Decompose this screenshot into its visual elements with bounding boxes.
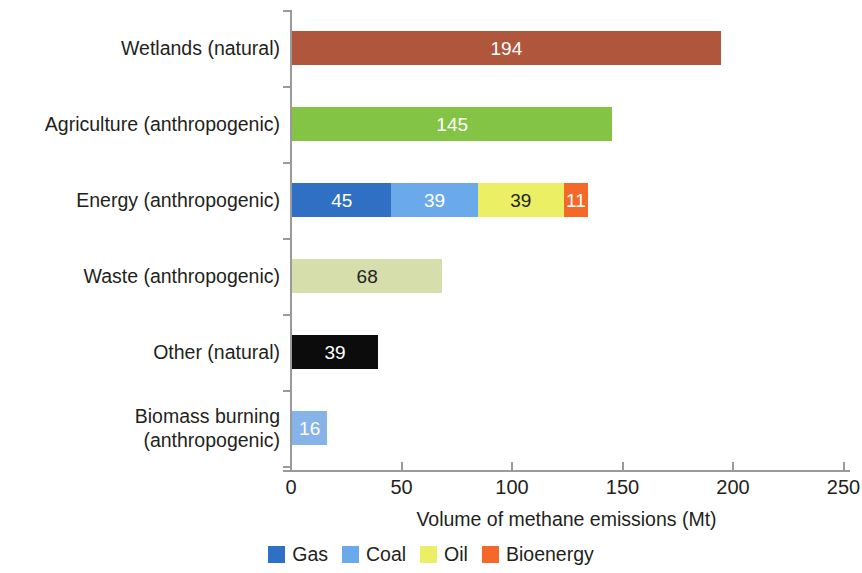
bar[interactable]: 16 [292,411,327,445]
legend-swatch-icon [342,546,359,563]
legend-label: Coal [366,543,406,566]
bar-row: Agriculture (anthropogenic)145 [0,86,862,162]
bar-value-label: 39 [325,343,346,362]
legend-item[interactable]: Bioenergy [482,543,594,566]
x-axis-tick-label: 100 [477,476,547,499]
x-axis-tick-label: 0 [256,476,326,499]
bar-value-label: 45 [331,191,352,210]
legend-item[interactable]: Oil [420,543,468,566]
category-label: Wetlands (natural) [10,36,280,61]
legend-swatch-icon [268,546,285,563]
x-axis-tick-label: 150 [588,476,658,499]
bar-segment[interactable]: 194 [292,31,721,65]
x-axis-line [283,470,850,472]
legend-item[interactable]: Gas [268,543,328,566]
bar-row: Other (natural)39 [0,314,862,390]
bar-segment[interactable]: 45 [292,183,391,217]
x-axis-tick-label: 250 [809,476,862,499]
category-label: Waste (anthropogenic) [10,264,280,289]
bar-segment[interactable]: 68 [292,259,442,293]
bar[interactable]: 39 [292,335,378,369]
bar-segment[interactable]: 11 [564,183,588,217]
x-axis-tick-label: 50 [367,476,437,499]
bar[interactable]: 145 [292,107,612,141]
bar-segment[interactable]: 39 [478,183,564,217]
bar-value-label: 194 [491,39,523,58]
bar[interactable]: 45393911 [292,183,588,217]
bar-segment[interactable]: 145 [292,107,612,141]
bar-value-label: 39 [510,191,531,210]
methane-emissions-bar-chart: Wetlands (natural)194Agriculture (anthro… [0,0,862,573]
bar-segment[interactable]: 16 [292,411,327,445]
bar[interactable]: 68 [292,259,442,293]
legend-label: Oil [444,543,468,566]
category-label: Agriculture (anthropogenic) [10,112,280,137]
chart-legend: GasCoalOilBioenergy [0,543,862,566]
bar-row: Biomass burning (anthropogenic)16 [0,390,862,466]
bar-value-label: 16 [299,419,320,438]
bar[interactable]: 194 [292,31,721,65]
bar-row: Waste (anthropogenic)68 [0,238,862,314]
legend-swatch-icon [420,546,437,563]
bar-segment[interactable]: 39 [292,335,378,369]
category-label: Biomass burning (anthropogenic) [10,404,280,452]
bar-value-label: 39 [424,191,445,210]
category-label: Other (natural) [10,340,280,365]
x-axis-title: Volume of methane emissions (Mt) [283,508,850,531]
legend-label: Gas [292,543,328,566]
legend-swatch-icon [482,546,499,563]
bar-value-label: 68 [357,267,378,286]
category-label: Energy (anthropogenic) [10,188,280,213]
legend-label: Bioenergy [506,543,594,566]
bar-row: Energy (anthropogenic)45393911 [0,162,862,238]
x-axis-tick-label: 200 [698,476,768,499]
bar-value-label: 145 [436,115,468,134]
bar-segment[interactable]: 39 [391,183,477,217]
legend-item[interactable]: Coal [342,543,406,566]
bar-row: Wetlands (natural)194 [0,10,862,86]
bar-value-label: 11 [566,191,586,210]
